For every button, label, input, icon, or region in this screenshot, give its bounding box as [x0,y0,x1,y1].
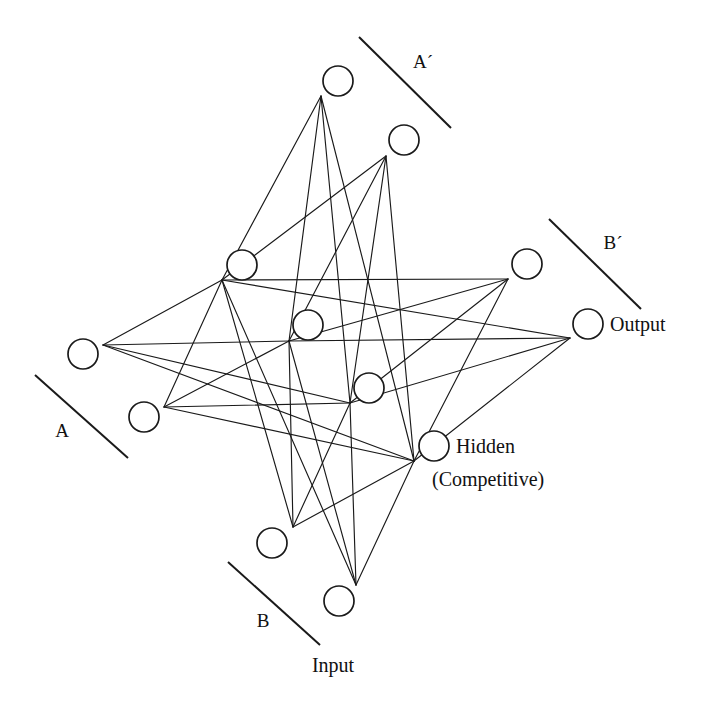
connection-edge [164,407,414,461]
neuron-node-input-b-2[interactable] [324,586,354,616]
connection-edge [293,403,350,527]
connection-edges [103,96,570,585]
label-b-prime: B´ [604,232,623,253]
connection-edge [164,341,289,407]
neuron-node-output-a-2[interactable] [389,125,419,155]
neuron-node-input-a-2[interactable] [129,402,159,432]
neuron-node-hidden-3[interactable] [354,373,384,403]
connection-edge [222,280,570,338]
group-divider-line-a-prime [359,37,451,128]
connection-edge [289,96,321,341]
connection-edge [356,461,414,585]
connection-edge [222,280,293,527]
label-b: B [257,610,270,631]
connection-edge [103,280,222,345]
label-a-prime: A´ [413,51,433,72]
diagram-text-labels: ABA´B´InputHidden(Competitive)Output [55,51,666,677]
neuron-node-output-a-1[interactable] [323,66,353,96]
neuron-node-output-b-2[interactable] [573,309,603,339]
label-output: Output [610,313,666,336]
neuron-node-input-b-1[interactable] [257,528,287,558]
label-hidden2: (Competitive) [432,468,544,491]
label-input: Input [312,654,355,677]
neuron-node-hidden-1[interactable] [227,250,257,280]
neuron-node-input-a-1[interactable] [68,339,98,369]
connection-edge [103,341,289,345]
neuron-node-output-b-1[interactable] [512,249,542,279]
connection-edge [350,403,356,585]
connection-edge [289,341,356,585]
neural-network-diagram: ABA´B´InputHidden(Competitive)Output [0,0,710,708]
connection-edge [321,96,350,403]
group-divider-line-b-prime [549,219,641,309]
diagram-canvas: ABA´B´InputHidden(Competitive)Output [0,0,710,708]
label-hidden: Hidden [456,435,515,457]
neuron-node-hidden-4[interactable] [419,431,449,461]
label-a: A [55,420,69,441]
group-divider-line-b [228,562,320,645]
connection-edge [222,279,508,280]
neuron-node-hidden-2[interactable] [293,310,323,340]
group-divider-line-a [35,375,128,458]
